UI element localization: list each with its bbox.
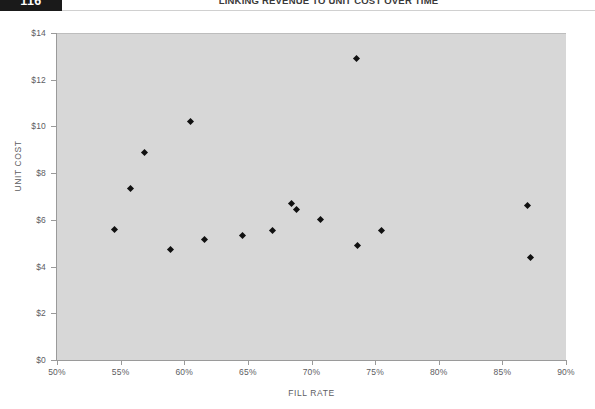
x-axis-tick	[375, 360, 376, 365]
y-axis-tick	[51, 173, 57, 174]
plot-area	[57, 33, 566, 361]
y-axis-tick-label: $2	[2, 308, 46, 318]
page-header: 116 LINKING REVENUE TO UNIT COST OVER TI…	[0, 0, 595, 11]
x-axis-tick-label: 75%	[355, 367, 395, 377]
x-axis-tick	[57, 360, 58, 365]
x-axis-tick-label: 60%	[164, 367, 204, 377]
x-axis-title: FILL RATE	[57, 388, 566, 398]
x-axis-tick-label: 85%	[482, 367, 522, 377]
x-axis-tick-label: 65%	[228, 367, 268, 377]
page-number: 116	[0, 0, 62, 11]
x-axis-tick-label: 70%	[292, 367, 332, 377]
y-axis-tick	[51, 267, 57, 268]
x-axis-tick	[121, 360, 122, 365]
y-axis-title: UNIT COST	[13, 121, 23, 211]
y-axis-tick-label: $14	[2, 28, 46, 38]
x-axis-tick	[248, 360, 249, 365]
y-axis-tick-label: $0	[2, 355, 46, 365]
y-axis-tick-label: $4	[2, 262, 46, 272]
x-axis-tick	[312, 360, 313, 365]
y-axis-tick	[51, 126, 57, 127]
y-axis-line	[56, 33, 57, 361]
y-axis-tick-label: $12	[2, 75, 46, 85]
y-axis-tick	[51, 33, 57, 34]
y-axis-tick	[51, 220, 57, 221]
x-axis-tick	[566, 360, 567, 365]
x-axis-tick	[184, 360, 185, 365]
y-axis-tick-label: $6	[2, 215, 46, 225]
y-axis-tick	[51, 80, 57, 81]
scatter-chart: $0$2$4$6$8$10$12$14 50%55%60%65%70%75%80…	[0, 11, 595, 409]
y-axis-tick	[51, 313, 57, 314]
y-axis-tick-label: $8	[2, 168, 46, 178]
x-axis-tick-label: 90%	[546, 367, 586, 377]
x-axis-tick	[502, 360, 503, 365]
x-axis-tick	[439, 360, 440, 365]
x-axis-tick-label: 55%	[101, 367, 141, 377]
x-axis-tick-label: 80%	[419, 367, 459, 377]
x-axis-tick-label: 50%	[37, 367, 77, 377]
y-axis-tick-label: $10	[2, 121, 46, 131]
